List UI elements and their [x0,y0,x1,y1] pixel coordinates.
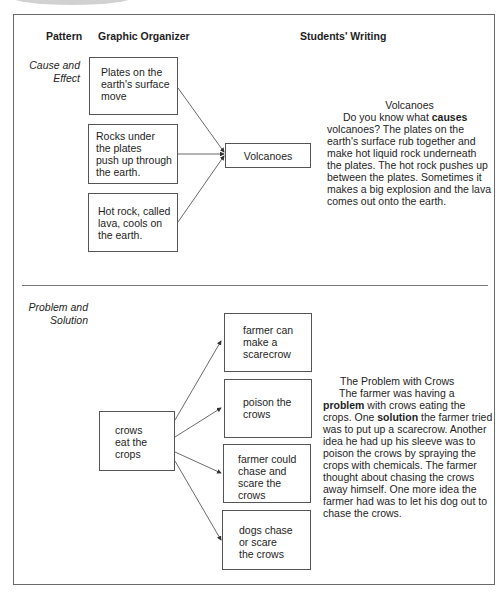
arrow-cause1-effect [178,88,224,152]
arrow-problem-solution3 [175,452,221,473]
connector-arrows [0,0,502,601]
arrow-cause3-effect [178,156,224,222]
arrow-problem-solution2 [175,408,221,437]
arrow-problem-solution1 [175,341,221,420]
arrow-problem-solution4 [175,461,221,540]
